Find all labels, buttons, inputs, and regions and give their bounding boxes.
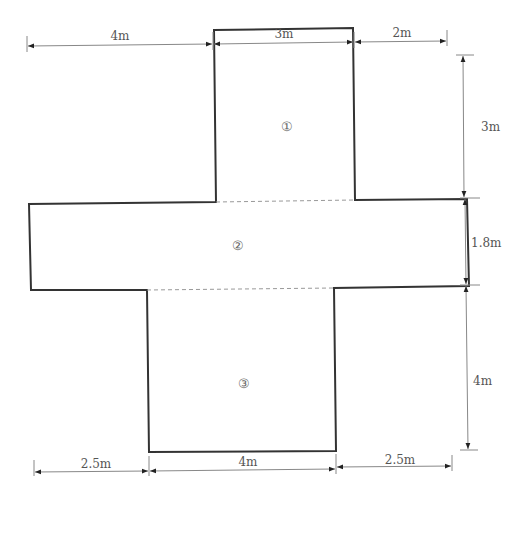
dim-top-1: 4m [110, 29, 130, 43]
top-dimensions [27, 30, 447, 52]
dim-bottom-1: 2.5m [81, 457, 112, 471]
divider-1-2 [216, 200, 355, 202]
dim-right-2: 1.8m [471, 236, 502, 250]
dim-bottom-3: 2.5m [385, 453, 416, 467]
region-2-label: ② [232, 238, 244, 253]
region-1-label: ① [281, 119, 293, 134]
dim-top-2: 3m [274, 27, 294, 41]
floor-plan-diagram: ① ② ③ 4m 3m 2m 3m 1.8m 4m 2.5m 4m 2.5m [0, 0, 521, 534]
region-3-label: ③ [238, 376, 250, 391]
dim-top-3: 2m [392, 26, 412, 40]
dim-right-1: 3m [481, 120, 501, 134]
dim-right-3: 4m [473, 374, 493, 388]
dim-bottom-2: 4m [238, 455, 258, 469]
divider-2-3 [147, 288, 334, 290]
